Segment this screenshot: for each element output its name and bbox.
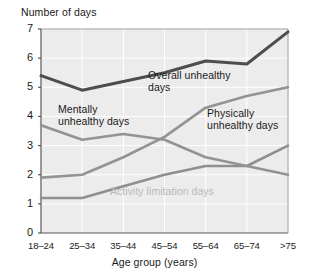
y-tick-label: 2 xyxy=(17,169,33,180)
series-label-activity-limitation-days: Activity limitation days xyxy=(110,186,214,198)
series-label-activity-line1: Activity limitation days xyxy=(110,185,214,197)
x-tick-label: 45–54 xyxy=(143,240,187,251)
y-tick-label: 6 xyxy=(17,52,33,63)
series-label-mentally-unhealthy-days: Mentally unhealthy days xyxy=(58,104,129,127)
series-label-mentally-line1: Mentally xyxy=(58,103,98,115)
plot-area xyxy=(0,0,309,275)
y-tick-label: 1 xyxy=(17,198,33,209)
x-tick-label: 25–34 xyxy=(60,240,104,251)
y-tick-label: 4 xyxy=(17,110,33,121)
series-label-overall-unhealthy-days: Overall unhealthy days xyxy=(148,70,231,93)
x-tick-label: 65–74 xyxy=(225,240,269,251)
x-tick-label: >75 xyxy=(266,240,309,251)
series-label-physically-unhealthy-days: Physically unhealthy days xyxy=(207,108,278,131)
x-tick-label: 55–64 xyxy=(184,240,228,251)
series-label-overall-line2: days xyxy=(148,81,170,93)
y-tick-label: 5 xyxy=(17,81,33,92)
series-label-physically-line1: Physically xyxy=(207,107,254,119)
y-tick-label: 3 xyxy=(17,140,33,151)
series-label-physically-line2: unhealthy days xyxy=(207,119,278,131)
series-label-mentally-line2: unhealthy days xyxy=(58,115,129,127)
chart-container: Number of days 01234567 18–2425–3435–444… xyxy=(0,0,309,275)
x-tick-label: 35–44 xyxy=(101,240,145,251)
series-label-overall-line1: Overall unhealthy xyxy=(148,69,231,81)
x-axis-title: Age group (years) xyxy=(0,256,309,268)
y-tick-label: 7 xyxy=(17,23,33,34)
y-tick-label: 0 xyxy=(17,227,33,238)
x-tick-label: 18–24 xyxy=(19,240,63,251)
